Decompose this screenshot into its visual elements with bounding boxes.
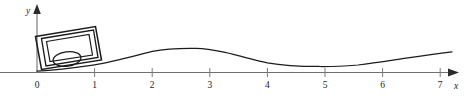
- tick-label-3: 3: [207, 80, 212, 90]
- x-axis-group: x: [0, 69, 459, 91]
- tick-label-6: 6: [380, 80, 385, 90]
- tick-label-4: 4: [265, 80, 270, 90]
- x-axis-label: x: [453, 81, 459, 91]
- tick-label-0: 0: [35, 80, 40, 90]
- x-axis-tick-labels: 0 1 2 3 4 5 6 7: [35, 80, 443, 90]
- figure-canvas: x y 0 1 2 3 4 5 6 7: [0, 0, 468, 100]
- tick-label-7: 7: [438, 80, 443, 90]
- x-axis-arrowhead: [448, 69, 459, 77]
- figure-container: x y 0 1 2 3 4 5 6 7: [0, 0, 468, 100]
- tilted-box-object: [36, 27, 102, 70]
- y-axis-arrowhead: [33, 4, 41, 14]
- y-axis-group: y: [25, 4, 41, 73]
- tick-label-1: 1: [92, 80, 97, 90]
- tick-label-5: 5: [323, 80, 328, 90]
- tick-label-2: 2: [150, 80, 155, 90]
- y-axis-label: y: [25, 6, 31, 16]
